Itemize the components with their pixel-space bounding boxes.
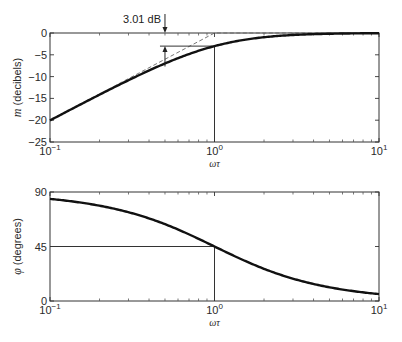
arrow-up-icon [162,46,167,52]
y-tick-label: 90 [35,186,47,198]
y-tick-label: 45 [35,241,47,253]
x-tick-label: 100 [206,143,223,157]
x-tick-label: 100 [206,302,223,316]
x-tick-label: 101 [371,143,388,157]
phase-x-axis-label: ωτ [209,317,220,328]
phase-x-ticks: 10−1100101 [39,192,388,316]
magnitude-y-ticks: 0−5−10−15−20−25 [28,27,379,148]
arrow-down-icon [162,27,167,33]
3db-label: 3.01 dB [123,13,161,25]
phase-plot: 04590 10−1100101 φ (degrees) ωτ [10,186,388,328]
y-tick-label: −5 [34,49,47,61]
x-tick-label: 10−1 [39,143,61,157]
bode-plot: 0−5−10−15−20−25 10−1100101 3.01 dB m (de… [0,0,402,342]
magnitude-plot: 0−5−10−15−20−25 10−1100101 3.01 dB m (de… [10,13,388,169]
y-tick-label: −20 [28,114,47,126]
y-tick-label: −15 [28,92,47,104]
x-tick-label: 10−1 [39,302,61,316]
magnitude-x-minor-ticks [100,33,372,142]
magnitude-x-axis-label: ωτ [209,158,220,169]
x-tick-label: 101 [371,302,388,316]
magnitude-x-ticks: 10−1100101 [39,33,388,157]
y-tick-label: 0 [41,27,47,39]
3db-annotation: 3.01 dB [123,13,167,66]
phase-y-axis-label: φ (degrees) [10,218,24,275]
magnitude-y-axis-label: m (decibels) [10,58,24,117]
y-tick-label: −10 [28,71,47,83]
